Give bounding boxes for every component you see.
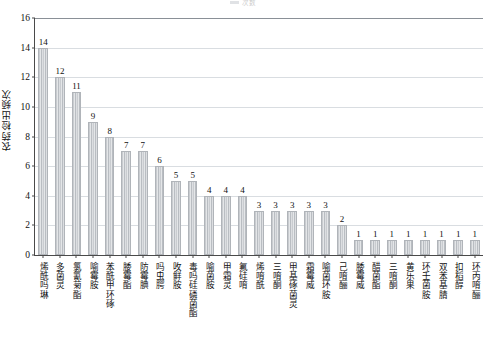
- bar-item[interactable]: 1: [367, 18, 384, 255]
- x-tick-mark: [126, 255, 127, 258]
- bar[interactable]: [321, 211, 331, 255]
- x-tick-label: 黄乐果: [404, 262, 413, 290]
- bar[interactable]: [354, 240, 364, 255]
- bar-item[interactable]: 7: [118, 18, 135, 255]
- x-tick-mark: [358, 255, 359, 258]
- bar-item[interactable]: 4: [201, 18, 218, 255]
- bar-item[interactable]: 7: [135, 18, 152, 255]
- plot-area: 0246810121416 14121198776554443333321111…: [34, 18, 483, 256]
- bar[interactable]: [138, 151, 148, 255]
- bar-value-label: 5: [174, 170, 179, 180]
- x-label-cell: 氯氰菊酯: [67, 262, 84, 346]
- bar-value-label: 8: [107, 126, 112, 136]
- legend-swatch-icon: [230, 1, 239, 4]
- bar-item[interactable]: 1: [400, 18, 417, 255]
- bar[interactable]: [72, 92, 82, 255]
- bar-item[interactable]: 1: [450, 18, 467, 255]
- x-tick-mark: [391, 255, 392, 258]
- bar[interactable]: [88, 122, 98, 255]
- x-label-cell: 烯酰吗琳: [34, 262, 51, 346]
- bar[interactable]: [38, 48, 48, 255]
- x-tick-label: 环丙唷酾: [470, 262, 479, 299]
- x-label-cell: 喻菌胺: [200, 262, 217, 346]
- x-tick-label: 腇霉威: [354, 262, 363, 290]
- x-tick-label: 喻菌胺: [204, 262, 213, 290]
- x-tick-mark: [59, 255, 60, 258]
- bar-item[interactable]: 3: [301, 18, 318, 255]
- bar-item[interactable]: 1: [433, 18, 450, 255]
- bar[interactable]: [387, 240, 397, 255]
- bar-item[interactable]: 4: [234, 18, 251, 255]
- bar[interactable]: [221, 196, 231, 255]
- bar-series: 141211987765544433333211111111: [35, 18, 483, 255]
- bar[interactable]: [55, 77, 65, 255]
- x-label-cell: 扣稻醇: [450, 262, 467, 346]
- bar[interactable]: [155, 166, 165, 255]
- bar-item[interactable]: 5: [184, 18, 201, 255]
- bar-item[interactable]: 5: [168, 18, 185, 255]
- bar[interactable]: [420, 240, 430, 255]
- bar[interactable]: [337, 225, 347, 255]
- bar-item[interactable]: 3: [317, 18, 334, 255]
- bar-value-label: 9: [91, 111, 96, 121]
- x-tick-mark: [225, 255, 226, 258]
- bar[interactable]: [171, 181, 181, 255]
- bar-item[interactable]: 11: [68, 18, 85, 255]
- legend-label: 次数: [242, 0, 256, 6]
- x-tick-mark: [275, 255, 276, 258]
- bar-value-label: 11: [72, 81, 81, 91]
- bar-value-label: 3: [323, 200, 328, 210]
- x-tick-label: 霜霉威: [304, 262, 313, 290]
- bar-item[interactable]: 3: [284, 18, 301, 255]
- bar[interactable]: [370, 240, 380, 255]
- bar-item[interactable]: 4: [218, 18, 235, 255]
- bar[interactable]: [105, 137, 115, 256]
- bar-item[interactable]: 8: [101, 18, 118, 255]
- bar[interactable]: [121, 151, 131, 255]
- bar-value-label: 5: [190, 170, 195, 180]
- x-tick-label: 三唷酮: [271, 262, 280, 290]
- bar-item[interactable]: 1: [417, 18, 434, 255]
- bar[interactable]: [404, 240, 414, 255]
- bar-item[interactable]: 1: [350, 18, 367, 255]
- x-tick-label: 环壬菌胺: [420, 262, 429, 299]
- bar-value-label: 1: [423, 229, 428, 239]
- x-label-cell: 苯酰甲环硺: [101, 262, 118, 346]
- bar-item[interactable]: 1: [466, 18, 483, 255]
- x-tick-mark: [375, 255, 376, 258]
- bar-item[interactable]: 9: [85, 18, 102, 255]
- x-label-cell: 己唷酾: [333, 262, 350, 346]
- bar[interactable]: [287, 211, 297, 255]
- bar-value-label: 3: [273, 200, 278, 210]
- bar-item[interactable]: 3: [267, 18, 284, 255]
- chart-legend: 次数: [0, 0, 486, 7]
- bar-item[interactable]: 12: [52, 18, 69, 255]
- bar-value-label: 6: [157, 155, 162, 165]
- bar[interactable]: [470, 240, 480, 255]
- bar-item[interactable]: 14: [35, 18, 52, 255]
- x-tick-mark: [242, 255, 243, 258]
- x-tick-label: 双苯基腈: [437, 262, 446, 299]
- x-label-cell: 毒吗硅磷菌酯: [184, 262, 201, 346]
- bar-item[interactable]: 1: [383, 18, 400, 255]
- x-tick-mark: [93, 255, 94, 258]
- x-tick-label: 烯酰吗琳: [38, 262, 47, 299]
- x-label-cell: 防霉腆: [134, 262, 151, 346]
- bar[interactable]: [204, 196, 214, 255]
- bar-item[interactable]: 2: [334, 18, 351, 255]
- bar[interactable]: [238, 196, 248, 255]
- bar-value-label: 1: [390, 229, 395, 239]
- x-tick-label: 腇霉酯: [121, 262, 130, 290]
- bar[interactable]: [453, 240, 463, 255]
- bar[interactable]: [304, 211, 314, 255]
- x-tick-label: 甲霜灵: [221, 262, 230, 290]
- bar[interactable]: [254, 211, 264, 255]
- bar-item[interactable]: 6: [151, 18, 168, 255]
- bar[interactable]: [271, 211, 281, 255]
- bar-item[interactable]: 3: [251, 18, 268, 255]
- bar[interactable]: [188, 181, 198, 255]
- x-tick-mark: [76, 255, 77, 258]
- x-tick-mark: [424, 255, 425, 258]
- bar-value-label: 2: [340, 214, 345, 224]
- bar[interactable]: [437, 240, 447, 255]
